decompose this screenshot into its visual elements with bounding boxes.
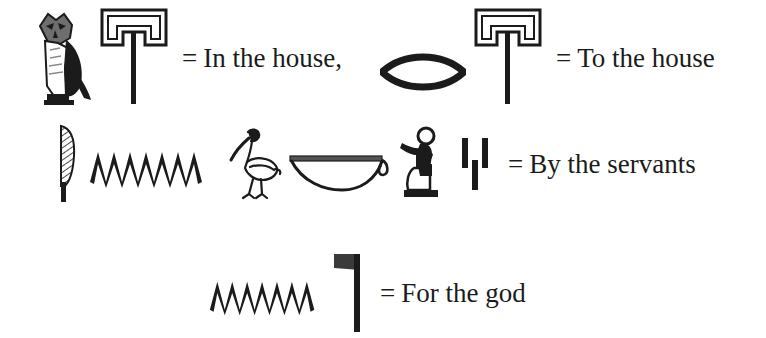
equals-sign-for-the-god: = [380,278,395,309]
gloss-for-the-god: For the god [401,280,526,307]
gloss-to-the-house: To the house [577,45,715,72]
basket-glyph [288,124,390,204]
hieroglyph-figure: = In the house, = To the house [0,0,766,338]
gloss-by-the-servants: By the servants [529,151,695,178]
water-ripple-glyph [88,124,206,204]
entry-for-the-god: = For the god [208,252,526,334]
god-flag-glyph [330,252,374,334]
ibis-bird-glyph [218,124,282,204]
house-glyph [472,8,544,108]
equals-sign-by-the-servants: = [508,149,523,180]
equals-sign-to-the-house: = [556,43,571,74]
seated-servant-glyph [396,124,450,204]
owl-glyph [34,8,92,108]
equals-sign-in-the-house: = [182,43,197,74]
entry-to-the-house: = To the house [380,8,715,108]
entry-in-the-house: = In the house, [34,8,342,108]
reed-leaf-glyph [52,124,82,204]
entry-by-the-servants: = By the servants [52,124,696,204]
plural-strokes-glyph [456,124,496,204]
house-glyph [98,8,170,108]
water-ripple-glyph [208,255,318,331]
mouth-glyph [380,8,466,108]
gloss-in-the-house: In the house, [203,45,342,72]
